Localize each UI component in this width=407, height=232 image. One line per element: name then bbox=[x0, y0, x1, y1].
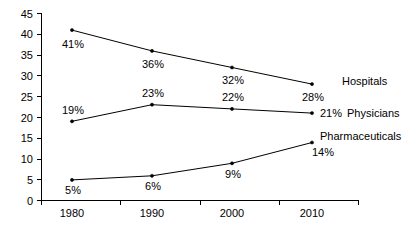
x-axis-ticks bbox=[42, 201, 359, 206]
hospitals-value-1990: 36% bbox=[142, 58, 164, 70]
y-tick-label-5: 5 bbox=[27, 174, 33, 186]
chart-canvas: 45 40 35 30 25 20 15 10 5 0 1980 1990 20… bbox=[0, 0, 407, 232]
y-tick-label-15: 15 bbox=[21, 132, 33, 144]
series-physicians: 19% 23% 22% 21% Physicians bbox=[62, 87, 400, 123]
physicians-point-1980 bbox=[70, 120, 73, 123]
x-tick-label-2000: 2000 bbox=[220, 207, 244, 219]
pharmaceuticals-point-1990 bbox=[150, 174, 153, 177]
series-pharmaceuticals: 5% 6% 9% 14% Pharmaceuticals bbox=[65, 130, 402, 196]
x-tick-label-1990: 1990 bbox=[140, 207, 164, 219]
physicians-value-2000: 22% bbox=[222, 91, 244, 103]
x-tick-label-2010: 2010 bbox=[300, 207, 324, 219]
hospitals-value-1980: 41% bbox=[62, 38, 84, 50]
x-axis-tick-labels: 1980 1990 2000 2010 bbox=[60, 207, 324, 219]
pharmaceuticals-point-1980 bbox=[70, 178, 73, 181]
hospitals-point-1980 bbox=[70, 29, 73, 32]
y-tick-label-20: 20 bbox=[21, 112, 33, 124]
hospitals-point-2000 bbox=[230, 66, 233, 69]
series-label-physicians: Physicians bbox=[347, 107, 400, 119]
y-tick-label-45: 45 bbox=[21, 8, 33, 20]
hospitals-value-2010: 28% bbox=[302, 91, 324, 103]
line-chart: 45 40 35 30 25 20 15 10 5 0 1980 1990 20… bbox=[0, 0, 407, 232]
physicians-point-1990 bbox=[150, 103, 153, 106]
physicians-line bbox=[72, 105, 312, 122]
y-tick-label-30: 30 bbox=[21, 70, 33, 82]
y-axis-ticks bbox=[37, 14, 42, 201]
physicians-value-1980: 19% bbox=[62, 104, 84, 116]
pharmaceuticals-value-1980: 5% bbox=[65, 184, 81, 196]
physicians-value-1990: 23% bbox=[142, 87, 164, 99]
series-label-pharmaceuticals: Pharmaceuticals bbox=[320, 130, 402, 142]
y-tick-label-10: 10 bbox=[21, 153, 33, 165]
hospitals-point-2010 bbox=[310, 83, 313, 86]
y-axis-tick-labels: 45 40 35 30 25 20 15 10 5 0 bbox=[21, 8, 33, 207]
pharmaceuticals-value-1990: 6% bbox=[145, 180, 161, 192]
hospitals-point-1990 bbox=[150, 49, 153, 52]
physicians-point-2010 bbox=[310, 112, 313, 115]
hospitals-line bbox=[72, 30, 312, 84]
y-tick-label-0: 0 bbox=[27, 195, 33, 207]
pharmaceuticals-point-2010 bbox=[310, 141, 313, 144]
series-label-hospitals: Hospitals bbox=[342, 75, 388, 87]
y-tick-label-35: 35 bbox=[21, 49, 33, 61]
y-tick-label-40: 40 bbox=[21, 28, 33, 40]
y-tick-label-25: 25 bbox=[21, 91, 33, 103]
pharmaceuticals-value-2000: 9% bbox=[225, 168, 241, 180]
pharmaceuticals-value-2010: 14% bbox=[312, 146, 334, 158]
x-tick-label-1980: 1980 bbox=[60, 207, 84, 219]
hospitals-value-2000: 32% bbox=[222, 74, 244, 86]
physicians-value-2010: 21% bbox=[320, 107, 342, 119]
pharmaceuticals-point-2000 bbox=[230, 162, 233, 165]
physicians-point-2000 bbox=[230, 107, 233, 110]
pharmaceuticals-line bbox=[72, 143, 312, 180]
